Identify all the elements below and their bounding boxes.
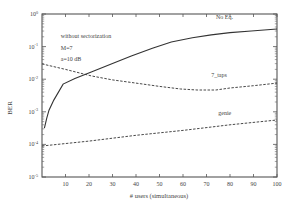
- annotation-text: M=7: [61, 45, 73, 51]
- series-label: No Eq.: [216, 14, 233, 20]
- series-label: genie: [218, 110, 231, 116]
- ber-vs-users-chart: 10010-110-210-310-410-5 1020304050607080…: [0, 0, 295, 205]
- x-tick-label: 70: [204, 181, 210, 187]
- x-tick-label: 20: [86, 181, 92, 187]
- series-labels: No Eq.7_tapsgenie: [211, 14, 233, 116]
- x-tick-label: 50: [157, 181, 163, 187]
- x-tick-label: 80: [227, 181, 233, 187]
- x-axis-label: # users (simultaneous): [130, 192, 189, 200]
- y-tick-label: 10-1: [29, 42, 39, 50]
- y-axis-label: BER: [6, 101, 14, 115]
- x-tick-label: 100: [273, 181, 282, 187]
- x-tick-label: 10: [63, 181, 69, 187]
- annotation-text: without sectorization: [61, 33, 112, 39]
- y-tick-label: 10-4: [29, 140, 39, 148]
- x-axis-ticks: 102030405060708090100: [63, 14, 282, 187]
- series-label: 7_taps: [211, 72, 227, 78]
- series-line-no-eq-: [44, 29, 277, 128]
- annotations: without sectorizationM=7a=10 dB: [61, 33, 112, 62]
- x-tick-label: 60: [180, 181, 186, 187]
- x-tick-label: 90: [251, 181, 257, 187]
- series-line-genie: [42, 120, 277, 146]
- y-tick-label: 10-2: [29, 75, 39, 83]
- y-tick-label: 100: [30, 10, 38, 18]
- x-tick-label: 30: [110, 181, 116, 187]
- x-tick-label: 40: [133, 181, 139, 187]
- y-tick-label: 10-3: [29, 107, 39, 115]
- series-line-7-taps: [42, 64, 277, 90]
- series-lines: [42, 29, 277, 146]
- y-tick-label: 10-5: [29, 173, 39, 181]
- annotation-text: a=10 dB: [61, 56, 82, 62]
